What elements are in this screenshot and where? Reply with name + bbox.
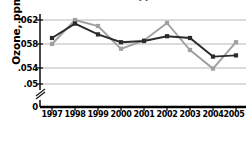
ozone-trend-chart: (as ozone, ppm) Ozone, ppm .062 .058 .05…	[0, 0, 250, 141]
gridlines	[40, 20, 246, 84]
axis-break-slash-icon	[36, 89, 45, 100]
plot-area	[0, 0, 250, 141]
